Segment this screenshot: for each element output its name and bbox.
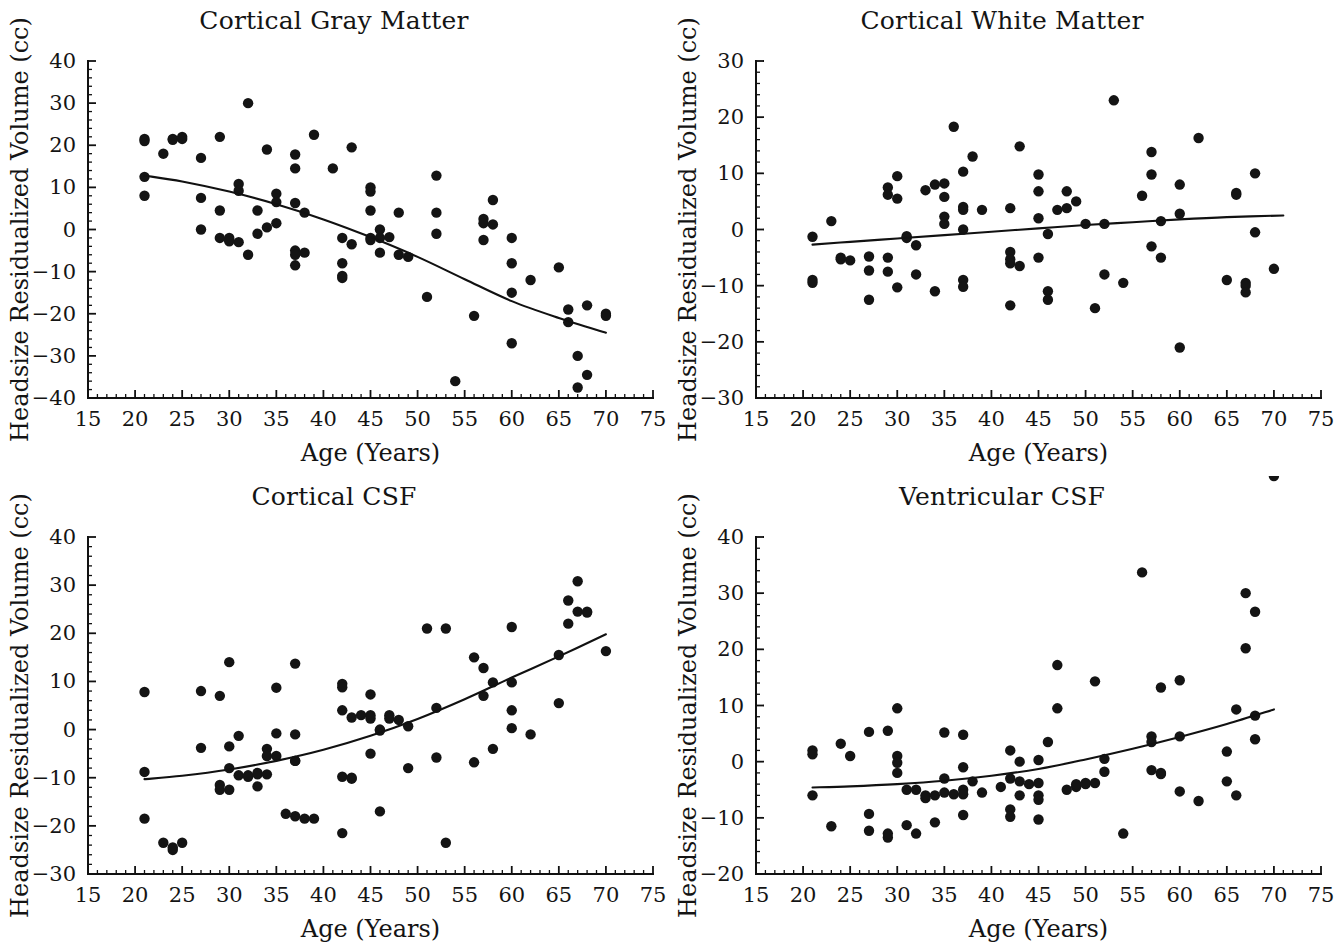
x-tick-label: 50: [404, 407, 431, 431]
data-point: [1240, 287, 1250, 297]
data-point: [1250, 734, 1260, 744]
data-point: [196, 224, 206, 234]
data-point: [394, 207, 404, 217]
data-point: [196, 686, 206, 696]
data-point: [864, 265, 874, 275]
axis-spines: [88, 537, 653, 874]
data-point: [939, 178, 949, 188]
data-point: [290, 260, 300, 270]
data-point: [337, 233, 347, 243]
data-point: [394, 715, 404, 725]
data-point: [864, 295, 874, 305]
data-point: [168, 135, 178, 145]
data-point: [1052, 660, 1062, 670]
data-point: [224, 785, 234, 795]
x-tick-label: 70: [593, 883, 620, 907]
y-axis-ticks: −30−20−10010203040: [32, 525, 96, 886]
data-point: [375, 247, 385, 257]
data-point: [1222, 746, 1232, 756]
data-point: [930, 817, 940, 827]
data-point: [1014, 776, 1024, 786]
data-point: [1062, 203, 1072, 213]
data-point: [807, 749, 817, 759]
data-point: [1043, 737, 1053, 747]
y-tick-label: −10: [32, 260, 76, 284]
data-point: [1090, 778, 1100, 788]
x-tick-label: 40: [978, 883, 1005, 907]
data-point: [290, 149, 300, 159]
data-point: [233, 237, 243, 247]
data-point: [1052, 703, 1062, 713]
data-point: [1005, 812, 1015, 822]
x-tick-label: 30: [884, 407, 911, 431]
data-point: [1024, 779, 1034, 789]
data-point: [892, 282, 902, 292]
data-point: [1033, 778, 1043, 788]
data-point: [883, 266, 893, 276]
data-point: [1005, 258, 1015, 268]
data-point: [1071, 196, 1081, 206]
data-point: [1222, 776, 1232, 786]
data-point: [1240, 643, 1250, 653]
axis-spines: [756, 61, 1321, 398]
data-point: [958, 282, 968, 292]
data-point: [1175, 675, 1185, 685]
y-tick-label: 20: [49, 133, 76, 157]
data-point: [1014, 141, 1024, 151]
data-point: [1137, 191, 1147, 201]
data-point: [1269, 264, 1279, 274]
data-point: [507, 705, 517, 715]
y-tick-label: 0: [63, 218, 76, 242]
data-point: [920, 790, 930, 800]
data-point: [864, 809, 874, 819]
data-point: [309, 813, 319, 823]
y-tick-label: 40: [49, 525, 76, 549]
data-point: [252, 769, 262, 779]
y-tick-label: 10: [717, 694, 744, 718]
data-point: [845, 255, 855, 265]
y-axis-ticks: −40−30−20−10010203040: [32, 49, 96, 410]
data-point: [290, 811, 300, 821]
data-point: [977, 787, 987, 797]
data-point: [525, 275, 535, 285]
x-tick-label: 15: [743, 883, 770, 907]
data-point: [836, 738, 846, 748]
data-point: [967, 151, 977, 161]
data-point: [262, 222, 272, 232]
data-point-group: [139, 576, 611, 855]
data-point: [958, 810, 968, 820]
data-point: [507, 233, 517, 243]
data-point: [469, 652, 479, 662]
chart-panel: Cortical CSF15202530354045505560657075−3…: [0, 476, 668, 951]
x-tick-label: 55: [451, 407, 478, 431]
data-point: [450, 376, 460, 386]
y-tick-label: 10: [49, 175, 76, 199]
data-point: [1250, 227, 1260, 237]
data-point: [1156, 682, 1166, 692]
data-point: [911, 240, 921, 250]
data-point: [1033, 252, 1043, 262]
y-tick-label: −30: [32, 862, 76, 886]
data-point: [883, 189, 893, 199]
data-point: [1099, 269, 1109, 279]
data-point: [911, 828, 921, 838]
data-point: [1156, 252, 1166, 262]
data-point: [139, 687, 149, 697]
data-point: [892, 171, 902, 181]
data-point: [1005, 773, 1015, 783]
data-point: [356, 710, 366, 720]
data-point: [572, 606, 582, 616]
data-point: [337, 828, 347, 838]
x-tick-label: 60: [498, 407, 525, 431]
data-point: [403, 763, 413, 773]
data-point: [139, 191, 149, 201]
data-point: [177, 134, 187, 144]
data-point: [252, 229, 262, 239]
y-tick-label: 30: [717, 49, 744, 73]
x-tick-label: 75: [640, 407, 667, 431]
data-point: [1062, 785, 1072, 795]
data-point: [939, 727, 949, 737]
data-point: [478, 235, 488, 245]
x-tick-label: 25: [837, 883, 864, 907]
data-point: [554, 262, 564, 272]
